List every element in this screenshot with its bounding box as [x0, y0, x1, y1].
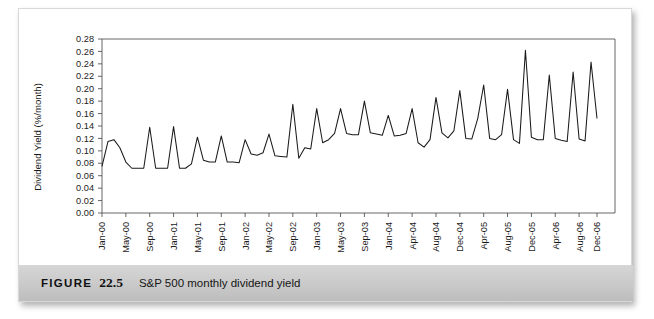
y-axis-tick-group: 0.000.020.040.060.080.100.120.140.160.18…	[76, 34, 102, 218]
x-axis-tick-label: May-03	[336, 222, 346, 253]
y-axis-tick-label: 0.10	[76, 146, 94, 156]
axis-lines	[102, 39, 615, 213]
y-axis-tick-label: 0.12	[76, 134, 94, 144]
figure-caption-number: 22.5	[99, 275, 123, 291]
x-axis-tick-label: Jan-01	[169, 222, 179, 250]
x-axis-tick-group: Jan-00May-00Sep-00Jan-01May-01Sep-01Jan-…	[97, 213, 602, 253]
x-axis-tick-label: Jan-03	[312, 222, 322, 250]
figure-caption-text: S&P 500 monthly dividend yield	[139, 277, 301, 289]
x-axis-tick-label: Aug-06	[575, 222, 585, 252]
y-axis-tick-label: 0.22	[76, 71, 94, 81]
figure-page: 0.000.020.040.060.080.100.120.140.160.18…	[0, 0, 654, 319]
y-axis-tick-label: 0.06	[76, 171, 94, 181]
figure-card: 0.000.020.040.060.080.100.120.140.160.18…	[18, 8, 632, 302]
figure-caption-band: FIGURE 22.5 S&P 500 monthly dividend yie…	[19, 265, 633, 301]
x-axis-tick-label: Sep-01	[217, 222, 227, 252]
x-axis-tick-label: Jan-00	[97, 222, 107, 250]
dividend-yield-line	[102, 50, 597, 168]
x-axis-tick-label: Jan-04	[384, 222, 394, 250]
x-axis-tick-label: Sep-03	[360, 222, 370, 252]
y-axis-tick-label: 0.02	[76, 196, 94, 206]
x-axis-tick-label: Apr-05	[479, 222, 489, 250]
x-axis-tick-label: Dec-04	[455, 222, 465, 252]
y-axis-tick-label: 0.28	[76, 34, 94, 44]
x-axis-tick-label: Dec-06	[592, 222, 602, 252]
x-axis-tick-label: Sep-02	[288, 222, 298, 252]
y-axis-tick-label: 0.18	[76, 96, 94, 106]
x-axis-tick-label: Jan-02	[241, 222, 251, 250]
x-axis-tick-label: May-02	[264, 222, 274, 253]
x-axis-tick-label: Aug-05	[503, 222, 513, 252]
y-axis-tick-label: 0.26	[76, 47, 94, 57]
y-axis-title: Dividend Yield (%/month)	[32, 83, 43, 191]
x-axis-tick-label: Apr-04	[408, 222, 418, 250]
y-axis-tick-label: 0.00	[76, 208, 94, 218]
y-axis-tick-label: 0.04	[76, 183, 94, 193]
x-axis-tick-label: Sep-00	[145, 222, 155, 252]
dividend-yield-series	[102, 50, 597, 168]
x-axis-tick-label: Dec-05	[527, 222, 537, 252]
x-axis-tick-label: Apr-06	[551, 222, 561, 250]
x-axis-tick-label: May-00	[121, 222, 131, 253]
chart-plot-region: 0.000.020.040.060.080.100.120.140.160.18…	[19, 9, 633, 259]
y-axis-tick-label: 0.14	[76, 121, 94, 131]
y-axis-tick-label: 0.16	[76, 109, 94, 119]
x-axis-tick-label: Aug-04	[431, 222, 441, 252]
dividend-yield-line-chart: 0.000.020.040.060.080.100.120.140.160.18…	[19, 9, 633, 259]
x-axis-tick-label: May-01	[193, 222, 203, 253]
figure-caption-label: FIGURE	[41, 277, 92, 289]
y-axis-tick-label: 0.20	[76, 84, 94, 94]
y-axis-tick-label: 0.08	[76, 158, 94, 168]
y-axis-tick-label: 0.24	[76, 59, 94, 69]
